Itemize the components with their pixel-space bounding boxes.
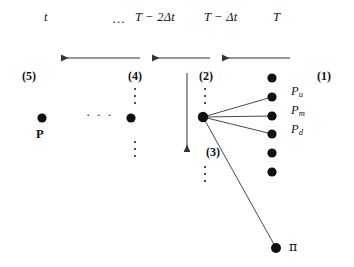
vertical-ellipsis-col2-bottom: [203, 166, 207, 182]
dot: [134, 155, 136, 157]
node-T-6: [267, 167, 276, 176]
lattice-nodes: [37, 73, 281, 253]
step-tag-5: (5): [22, 70, 36, 82]
time-label-t: t: [44, 11, 48, 24]
node-label-Pd: Pd: [291, 123, 303, 136]
vertical-ellipsis-col4-bottom: [133, 141, 137, 157]
edge-center-to-pi: [203, 117, 276, 248]
lattice-edges: [203, 97, 276, 248]
dot: [134, 141, 136, 143]
dot: [204, 166, 206, 168]
dot: [204, 95, 206, 97]
dot: [204, 88, 206, 90]
node-label-Pm: Pm: [291, 104, 305, 117]
node-col4: [126, 113, 135, 122]
edge-center-to-Pm: [203, 116, 272, 117]
time-label-T: T: [273, 11, 280, 24]
node-label-Pu: Pu: [291, 85, 303, 98]
dot: [134, 95, 136, 97]
time-label-T-minus-2dt: T − 2Δt: [135, 11, 175, 24]
step-tag-4: (4): [128, 70, 142, 82]
vertical-ellipsis-col2-top: [203, 88, 207, 104]
dot: [134, 88, 136, 90]
node-pi: [271, 243, 281, 253]
step-tag-3: (3): [206, 146, 220, 158]
node-T-1: [267, 73, 276, 82]
node-T-3: [267, 111, 276, 120]
edge-center-to-Pd: [203, 117, 272, 134]
horizontal-ellipsis-mid: · · ·: [86, 108, 113, 121]
node-center: [198, 112, 208, 122]
step-tag-2: (2): [199, 70, 213, 82]
step-tag-1: (1): [317, 70, 331, 82]
node-P: [37, 113, 46, 122]
dot: [204, 173, 206, 175]
edge-center-to-Pu: [203, 97, 272, 117]
node-T-5: [267, 148, 276, 157]
node-label-P: P: [36, 128, 44, 141]
dot: [204, 102, 206, 104]
lattice-diagram: t … T − 2Δt T − Δt T (5) (4) (2) (1) (3)…: [0, 0, 354, 267]
dot: [134, 148, 136, 150]
time-label-T-minus-dt: T − Δt: [204, 11, 237, 24]
node-label-pi: π: [289, 241, 297, 254]
time-axis-ellipsis: …: [112, 12, 127, 25]
dot: [134, 102, 136, 104]
dot: [204, 180, 206, 182]
node-T-4: [267, 129, 276, 138]
node-T-2: [267, 92, 276, 101]
vertical-ellipsis-col4-top: [133, 88, 137, 104]
